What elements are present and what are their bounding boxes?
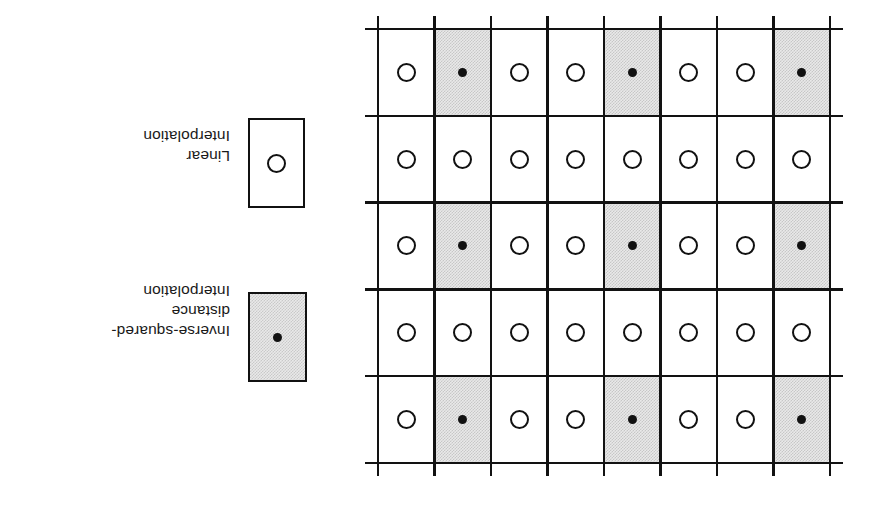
filled-dot-icon: [458, 68, 467, 77]
grid-cell: [435, 29, 492, 116]
grid-cell: [661, 29, 718, 116]
open-circle-icon: [623, 323, 642, 342]
open-circle-icon: [736, 150, 755, 169]
grid-cell: [774, 376, 831, 463]
filled-dot-icon: [797, 415, 806, 424]
grid-cell: [774, 289, 831, 376]
open-circle-icon: [566, 410, 585, 429]
open-circle-icon: [679, 323, 698, 342]
grid-cell: [661, 376, 718, 463]
open-circle-icon: [397, 236, 416, 255]
grid-cell: [774, 203, 831, 290]
interpolation-grid-figure: Linear Interpolation Inverse-squared- di…: [0, 0, 883, 511]
grid-horizontal-rule: [365, 288, 843, 291]
grid-horizontal-rule: [365, 462, 843, 465]
open-circle-icon: [566, 323, 585, 342]
open-circle-icon: [792, 150, 811, 169]
grid-cell: [491, 376, 548, 463]
grid-cell: [378, 29, 435, 116]
open-circle-icon: [792, 323, 811, 342]
grid-cell: [661, 116, 718, 203]
open-circle-icon: [566, 236, 585, 255]
filled-dot-icon: [628, 241, 637, 250]
grid-cell: [548, 376, 605, 463]
grid-cell: [604, 29, 661, 116]
grid-cell: [435, 203, 492, 290]
grid-horizontal-rule: [365, 201, 843, 204]
grid-cell: [435, 289, 492, 376]
open-circle-icon: [510, 323, 529, 342]
filled-dot-icon: [797, 241, 806, 250]
grid-cell: [604, 203, 661, 290]
grid-cell: [491, 29, 548, 116]
grid-vertical-rule: [546, 16, 549, 476]
open-circle-icon: [566, 150, 585, 169]
open-circle-icon: [736, 236, 755, 255]
open-circle-icon: [736, 323, 755, 342]
grid-cell: [378, 203, 435, 290]
grid-vertical-rule: [829, 16, 832, 476]
grid-vertical-rule: [659, 16, 662, 476]
open-circle-icon: [679, 236, 698, 255]
open-circle-icon: [510, 150, 529, 169]
filled-dot-icon: [458, 415, 467, 424]
open-circle-icon: [397, 323, 416, 342]
open-circle-icon: [397, 410, 416, 429]
open-circle-icon: [397, 150, 416, 169]
filled-dot-icon: [628, 415, 637, 424]
grid-cell: [435, 116, 492, 203]
open-circle-icon: [679, 150, 698, 169]
grid-cell: [548, 289, 605, 376]
grid-horizontal-rule: [365, 115, 843, 118]
open-circle-icon: [679, 63, 698, 82]
open-circle-icon: [736, 410, 755, 429]
grid: [0, 0, 883, 511]
grid-horizontal-rule: [365, 28, 843, 31]
grid-cell: [661, 289, 718, 376]
open-circle-icon: [510, 410, 529, 429]
grid-cell: [548, 29, 605, 116]
open-circle-icon: [566, 63, 585, 82]
grid-vertical-rule: [377, 16, 380, 476]
open-circle-icon: [736, 63, 755, 82]
grid-cell: [604, 116, 661, 203]
grid-cell: [717, 289, 774, 376]
filled-dot-icon: [458, 241, 467, 250]
grid-cell: [661, 203, 718, 290]
grid-cell: [435, 376, 492, 463]
grid-cell: [774, 29, 831, 116]
grid-cell: [491, 116, 548, 203]
grid-cell: [717, 29, 774, 116]
grid-vertical-rule: [772, 16, 775, 476]
grid-vertical-rule: [716, 16, 719, 476]
grid-cell: [378, 116, 435, 203]
grid-horizontal-rule: [365, 375, 843, 378]
grid-vertical-rule: [603, 16, 606, 476]
grid-vertical-rule: [490, 16, 493, 476]
grid-vertical-rule: [433, 16, 436, 476]
filled-dot-icon: [797, 68, 806, 77]
open-circle-icon: [679, 410, 698, 429]
grid-cell: [774, 116, 831, 203]
open-circle-icon: [453, 323, 472, 342]
filled-dot-icon: [628, 68, 637, 77]
grid-cell: [378, 289, 435, 376]
grid-cell: [548, 203, 605, 290]
open-circle-icon: [510, 236, 529, 255]
open-circle-icon: [397, 63, 416, 82]
grid-cell: [548, 116, 605, 203]
grid-cell: [604, 376, 661, 463]
grid-cell: [378, 376, 435, 463]
grid-cell: [717, 116, 774, 203]
grid-cell: [491, 289, 548, 376]
open-circle-icon: [510, 63, 529, 82]
grid-cell: [604, 289, 661, 376]
grid-cell: [491, 203, 548, 290]
grid-cell: [717, 376, 774, 463]
open-circle-icon: [453, 150, 472, 169]
grid-cell: [717, 203, 774, 290]
open-circle-icon: [623, 150, 642, 169]
